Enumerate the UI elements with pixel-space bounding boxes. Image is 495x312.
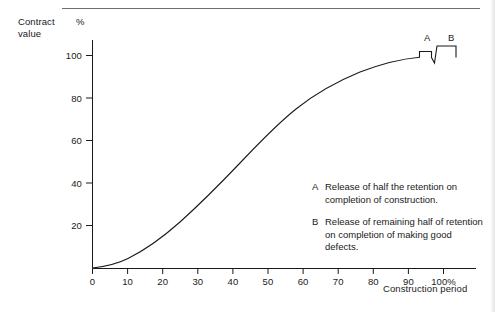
chart-plot — [0, 0, 495, 312]
x-axis-ticks — [93, 269, 444, 274]
figure-canvas: Contract value % Construction period A B — [0, 0, 495, 312]
x-tick-label-0: 0 — [83, 276, 103, 287]
legend: A Release of half the retention on compl… — [312, 181, 487, 264]
legend-key-b: B — [312, 216, 325, 254]
x-tick-label-60: 60 — [293, 276, 313, 287]
x-tick-label-100: 100% — [430, 276, 458, 287]
x-tick-label-30: 30 — [188, 276, 208, 287]
legend-key-a: A — [312, 181, 325, 206]
y-tick-label-100: 100 — [56, 50, 82, 61]
legend-text-a: Release of half the retention on complet… — [325, 181, 487, 206]
x-tick-label-10: 10 — [118, 276, 138, 287]
x-tick-label-20: 20 — [153, 276, 173, 287]
y-tick-label-20: 20 — [56, 220, 82, 231]
y-axis-ticks — [86, 56, 92, 226]
x-tick-label-90: 90 — [398, 276, 418, 287]
retention-step-path — [420, 46, 457, 63]
x-tick-label-50: 50 — [258, 276, 278, 287]
y-tick-label-80: 80 — [56, 93, 82, 104]
legend-item-a: A Release of half the retention on compl… — [312, 181, 487, 206]
x-tick-label-40: 40 — [223, 276, 243, 287]
legend-item-b: B Release of remaining half of retention… — [312, 216, 487, 254]
x-tick-label-80: 80 — [363, 276, 383, 287]
y-tick-label-40: 40 — [56, 178, 82, 189]
legend-text-b: Release of remaining half of retention o… — [325, 216, 487, 254]
y-tick-label-60: 60 — [56, 135, 82, 146]
x-tick-label-70: 70 — [328, 276, 348, 287]
